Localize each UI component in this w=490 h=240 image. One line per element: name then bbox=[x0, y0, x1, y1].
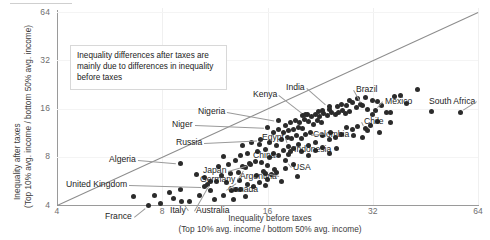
data-point bbox=[300, 126, 305, 131]
data-point bbox=[158, 201, 163, 206]
country-label-usa: USA bbox=[293, 163, 311, 172]
data-point bbox=[208, 188, 213, 193]
data-point bbox=[377, 130, 382, 135]
data-point bbox=[212, 197, 217, 202]
y-axis-title-sub: (Top 10% avg. income / bottom 50% avg. i… bbox=[23, 25, 34, 208]
data-point bbox=[245, 151, 250, 156]
data-point-south-africa bbox=[458, 110, 463, 115]
data-point-algeria bbox=[178, 161, 183, 166]
data-point bbox=[259, 160, 264, 165]
data-point bbox=[257, 142, 262, 147]
data-point-nigeria bbox=[276, 118, 281, 123]
gridline-horizontal bbox=[57, 12, 478, 13]
data-point bbox=[152, 193, 157, 198]
y-axis-title-main: Inequality after taxes bbox=[12, 123, 23, 200]
scatter-chart: 4816326448163264FranceItalyAustraliaUnit… bbox=[0, 0, 490, 240]
data-point-egypt bbox=[286, 144, 291, 149]
top-rule-decoration bbox=[10, 3, 72, 4]
data-point bbox=[388, 120, 393, 125]
data-point bbox=[350, 127, 355, 132]
data-point-india bbox=[327, 104, 332, 109]
data-point bbox=[238, 153, 243, 158]
data-point bbox=[360, 135, 365, 140]
x-axis-title-main: Inequality before taxes bbox=[160, 213, 380, 224]
data-point-japan bbox=[248, 162, 253, 167]
country-label-south-africa: South Africa bbox=[429, 97, 475, 106]
data-point bbox=[296, 125, 301, 130]
data-point bbox=[265, 163, 270, 168]
x-axis-title-sub: (Top 10% avg. income / bottom 50% avg. i… bbox=[160, 224, 380, 235]
data-point bbox=[283, 123, 288, 128]
country-label-mexico: Mexico bbox=[385, 97, 412, 106]
data-point bbox=[351, 133, 356, 138]
data-point bbox=[334, 146, 339, 151]
annotation-callout: Inequality differences after taxes are m… bbox=[70, 45, 227, 90]
data-point bbox=[299, 136, 304, 141]
x-tick-label-64: 64 bbox=[468, 207, 488, 216]
x-tick-label-4: 4 bbox=[47, 207, 67, 216]
data-point bbox=[240, 143, 245, 148]
data-point bbox=[297, 120, 302, 125]
leader-line bbox=[306, 88, 326, 105]
gridline-vertical bbox=[478, 8, 479, 205]
country-label-egypt: Egypt bbox=[262, 133, 284, 142]
country-label-indonesia: Indonesia bbox=[294, 145, 331, 154]
data-point bbox=[429, 109, 434, 114]
country-label-nigeria: Nigeria bbox=[198, 107, 225, 116]
country-label-russia: Russia bbox=[176, 138, 202, 147]
data-point bbox=[187, 199, 192, 204]
country-label-germany: Germany bbox=[200, 175, 235, 184]
data-point-indonesia bbox=[288, 149, 293, 154]
data-point bbox=[171, 196, 176, 201]
data-point bbox=[233, 158, 238, 163]
country-label-algeria: Algeria bbox=[109, 155, 136, 164]
data-point bbox=[231, 197, 236, 202]
data-point bbox=[283, 166, 288, 171]
data-point bbox=[319, 120, 324, 125]
data-point-mexico bbox=[373, 108, 378, 113]
data-point bbox=[365, 107, 370, 112]
data-point bbox=[316, 109, 321, 114]
country-label-japan: Japan bbox=[203, 166, 226, 175]
data-point bbox=[295, 174, 300, 179]
data-point bbox=[131, 194, 136, 199]
data-point bbox=[221, 154, 226, 159]
data-point bbox=[167, 190, 172, 195]
country-label-niger: Niger bbox=[172, 120, 193, 129]
data-point bbox=[226, 162, 231, 167]
data-point-chile bbox=[363, 126, 368, 131]
country-label-united-kingdom: United Kingdom bbox=[66, 180, 127, 189]
leader-line bbox=[134, 208, 146, 218]
data-point bbox=[221, 193, 226, 198]
data-point bbox=[243, 194, 248, 199]
country-label-france: France bbox=[105, 212, 132, 221]
x-axis-title: Inequality before taxes (Top 10% avg. in… bbox=[160, 213, 380, 234]
data-point-france bbox=[146, 203, 151, 208]
data-point bbox=[281, 148, 286, 153]
data-point bbox=[274, 143, 279, 148]
country-label-kenya: Kenya bbox=[253, 90, 277, 99]
data-point bbox=[415, 87, 420, 92]
data-point bbox=[279, 179, 284, 184]
data-point-italy bbox=[179, 199, 184, 204]
country-label-brazil: Brazil bbox=[356, 85, 378, 94]
data-point bbox=[194, 172, 199, 177]
data-point bbox=[291, 127, 296, 132]
data-point bbox=[355, 124, 360, 129]
data-point bbox=[339, 102, 344, 107]
country-label-india: India bbox=[286, 83, 305, 92]
data-point bbox=[363, 95, 368, 100]
data-point bbox=[178, 187, 183, 192]
gridline-vertical bbox=[162, 8, 163, 205]
y-tick-label-64: 64 bbox=[28, 8, 50, 17]
country-label-chile: Chile bbox=[364, 117, 384, 126]
gridline-vertical bbox=[373, 8, 374, 205]
data-point bbox=[347, 109, 352, 114]
data-point-niger bbox=[265, 125, 270, 130]
data-point bbox=[263, 183, 268, 188]
data-point-usa bbox=[283, 158, 288, 163]
data-point bbox=[388, 110, 393, 115]
leader-line bbox=[129, 185, 201, 188]
data-point bbox=[286, 128, 291, 133]
